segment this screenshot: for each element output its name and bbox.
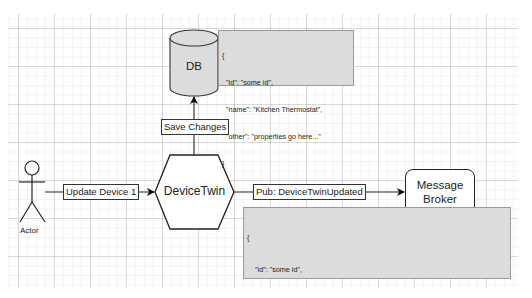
- note-line: "id": "some id",: [222, 78, 350, 87]
- note-line: {: [247, 233, 507, 244]
- edge-label-save-changes[interactable]: Save Changes: [161, 119, 229, 135]
- message-broker-label-line2: Broker: [417, 192, 464, 206]
- diagram-canvas: { "id": "some id", "name": "Kitchen Ther…: [0, 0, 532, 298]
- device-twin-label: DeviceTwin: [155, 184, 234, 198]
- actor-label: Actor: [20, 226, 39, 235]
- note-line: }: [222, 159, 350, 168]
- actor-stick-figure[interactable]: [19, 161, 45, 222]
- db-record-note: { "id": "some id", "name": "Kitchen Ther…: [218, 30, 354, 86]
- note-line: "other": "properties go here...": [222, 132, 350, 141]
- message-broker-label-line1: Message: [417, 178, 464, 192]
- note-line: {: [222, 51, 350, 60]
- note-line: "name": "Kitchen Thermostat",: [222, 105, 350, 114]
- db-label: DB: [170, 60, 218, 72]
- edge-label-update-device[interactable]: Update Device 1: [63, 184, 139, 200]
- event-payload-note: { "id": "some id", "patches": [ { "op": …: [243, 207, 511, 279]
- edge-label-pub-devicetwinupdated[interactable]: Pub: DeviceTwinUpdated: [253, 184, 366, 200]
- note-line: "id": "some id",: [247, 265, 507, 276]
